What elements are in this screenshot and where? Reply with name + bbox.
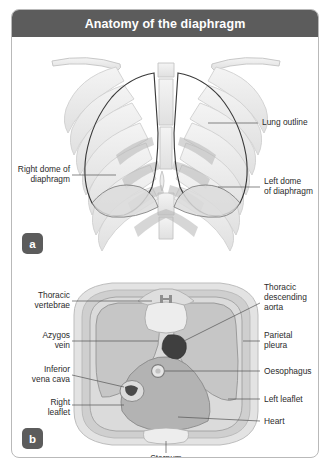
- label-thoracic-vertebrae: Thoracic vertebrae: [12, 290, 70, 310]
- label-oesophagus: Oesophagus: [264, 366, 312, 376]
- label-lung-outline: Lung outline: [262, 117, 308, 127]
- figure-title-bar: Anatomy of the diaphragm: [12, 10, 318, 37]
- panel-badge-b: b: [22, 428, 43, 449]
- panel-b: b Thoracic vertebrae Azygos vein Inferio…: [12, 271, 318, 458]
- page-title: Anatomy of the diaphragm: [85, 17, 246, 31]
- oesophagus-shape: [152, 365, 165, 378]
- thoracic-cage-anterior-illustration: [12, 37, 319, 271]
- label-left-leaflet: Left leaflet: [264, 394, 303, 404]
- panel-badge-a: a: [22, 233, 43, 254]
- inferior-vena-cava-shape: [120, 381, 144, 402]
- label-sternum: Sternum: [138, 453, 194, 458]
- panel-a: a Lung outline Right dome of diaphragm L…: [12, 37, 318, 271]
- label-right-leaflet: Right leaflet: [12, 397, 70, 417]
- thoracic-vertebra-icon: [138, 289, 194, 333]
- label-thoracic-descending-aorta: Thoracic descending aorta: [264, 282, 307, 313]
- label-azygos-vein: Azygos vein: [12, 330, 70, 350]
- label-right-dome-of-diaphragm: Right dome of diaphragm: [12, 164, 70, 184]
- label-left-dome-of-diaphragm: Left dome of diaphragm: [264, 176, 313, 196]
- figure-frame: Anatomy of the diaphragm: [11, 9, 319, 458]
- label-inferior-vena-cava: Inferior vena cava: [12, 364, 70, 384]
- label-heart: Heart: [264, 416, 284, 426]
- label-parietal-pleura: Parietal pleura: [264, 330, 292, 350]
